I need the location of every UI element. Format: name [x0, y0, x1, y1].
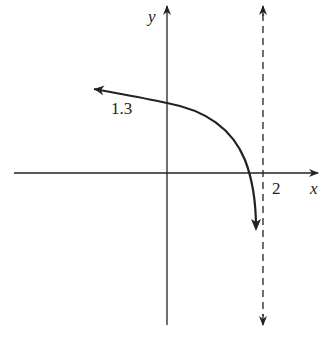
- y-axis-label: y: [148, 8, 156, 25]
- y-intercept-label: 1.3: [111, 100, 132, 117]
- x-axis-label: x: [310, 180, 318, 197]
- graph: y x 1.3 2: [0, 0, 332, 337]
- asymptote-tick-label: 2: [272, 180, 281, 197]
- graph-canvas: [0, 0, 332, 337]
